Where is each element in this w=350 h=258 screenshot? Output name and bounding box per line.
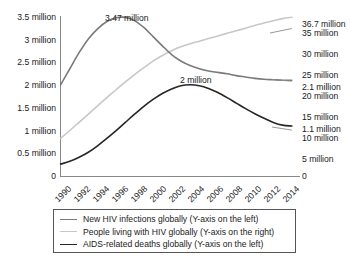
legend-swatch-aids-related-deaths [60,244,77,245]
annotation-peak-aids-deaths: 2 million [180,76,212,85]
leader-line-aids-deaths [272,127,292,130]
y-right-tick-30000000: 30 million [302,50,338,59]
y-right-tick-0: 0 [302,172,307,181]
y-left-tick-2500000: 2.5 million [0,58,56,67]
y-left-tick-2000000: 2 million [0,81,56,90]
legend-swatch-new-hiv-infections [60,219,77,220]
legend-item-new-hiv-infections: New HIV infections globally (Y-axis on t… [54,213,295,226]
series-line-people-living-with-hiv [61,17,292,138]
y-left-tick-3000000: 3 million [0,36,56,45]
y-right-tick-35000000: 35 million [302,29,338,38]
annotation-end-people-living: 36.7 million [302,20,345,29]
y-right-tick-25000000: 25 million [302,71,338,80]
annotation-end-aids-deaths: 1.1 million [302,125,341,134]
legend-label-new-hiv-infections: New HIV infections globally (Y-axis on t… [83,214,258,224]
leader-line-people-living [270,29,292,34]
legend-item-aids-related-deaths: AIDS-related deaths globally (Y-axis on … [54,238,295,251]
y-left-tick-0: 0 [0,172,56,181]
legend-label-people-living-with-hiv: People living with HIV globally (Y-axis … [83,227,274,237]
y-right-tick-20000000: 20 million [302,92,338,101]
y-right-tick-15000000: 15 million [302,113,338,122]
y-left-tick-3500000: 3.5 million [0,13,56,22]
series-line-aids-related-deaths [61,85,292,164]
annotation-end-new-infections: 2.1 million [302,83,341,92]
chart-legend: New HIV infections globally (Y-axis on t… [53,209,296,253]
legend-label-aids-related-deaths: AIDS-related deaths globally (Y-axis on … [83,239,263,249]
series-line-new-hiv-infections [61,17,292,85]
legend-swatch-people-living-with-hiv [60,231,77,232]
y-left-tick-1500000: 1.5 million [0,104,56,113]
y-right-tick-5000000: 5 million [302,155,334,164]
annotation-peak-new-infections: 3.47 million [105,14,148,23]
y-left-tick-500000: 0.5 million [0,149,56,158]
hiv-statistics-line-chart: 3.5 million 3 million 2.5 million 2 mill… [0,0,350,258]
legend-item-people-living-with-hiv: People living with HIV globally (Y-axis … [54,226,295,239]
y-left-tick-1000000: 1 million [0,127,56,136]
y-right-tick-10000000: 10 million [302,134,338,143]
